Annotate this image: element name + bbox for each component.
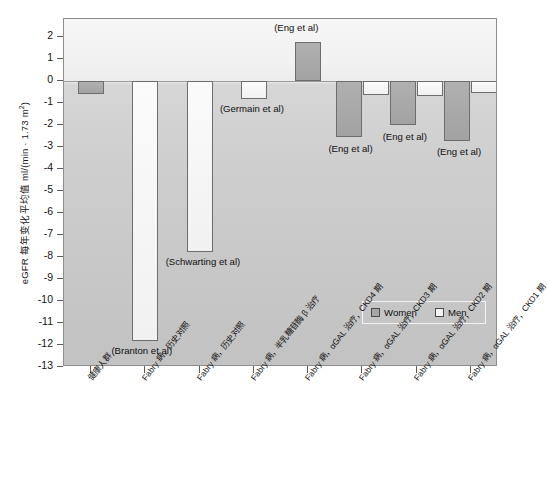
y-axis-tick-label: -13 [23,359,53,371]
bar-men [471,81,497,93]
y-axis-tick-label: -11 [23,315,53,327]
bar-annotation: (Eng et al) [383,131,427,142]
bar-women [295,42,321,81]
bar-women [390,81,416,125]
bar-annotation: (Eng et al) [328,143,372,154]
y-axis-tick-label: -1 [23,95,53,107]
y-axis-tick-label: -3 [23,139,53,151]
legend-swatch-men-icon [435,308,444,317]
y-axis-tick-label: 0 [23,73,53,85]
bar-women [78,81,104,94]
bar-women [444,81,470,142]
bar-women [336,81,362,137]
y-axis-tick-label: -4 [23,161,53,173]
y-axis-tick-label: -12 [23,337,53,349]
bar-annotation: (Eng et al) [437,146,481,157]
y-axis-tick-label: -8 [23,249,53,261]
y-axis-tick-label: -9 [23,271,53,283]
bar-annotation: (Schwarting et al) [166,256,241,267]
y-axis-tick-label: -5 [23,183,53,195]
y-axis-tick-label: -10 [23,293,53,305]
bar-men [363,81,389,95]
y-axis-tick-label: 2 [23,29,53,41]
y-axis-tick-label: -2 [23,117,53,129]
bar-men [241,81,267,100]
bar-annotation: (Eng et al) [274,22,318,33]
y-axis-tick-label: -6 [23,205,53,217]
y-axis-tick-label: -7 [23,227,53,239]
legend-swatch-women-icon [371,308,380,317]
bar-men [187,81,213,253]
y-axis-tick [57,366,63,367]
bar-annotation: (Germain et al) [220,103,284,114]
y-axis-tick-label: 1 [23,51,53,63]
bar-men [132,81,158,341]
plot-area: (Branton et al)(Schwarting et al)(Germai… [63,18,497,366]
bar-men [417,81,443,96]
